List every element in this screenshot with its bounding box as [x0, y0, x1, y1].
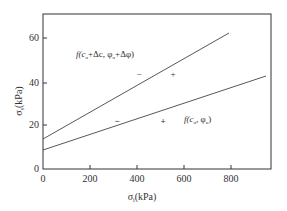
- x-ticks: [90, 165, 231, 169]
- x-tick-label: 400: [130, 173, 145, 184]
- y-tick-label: 40: [29, 77, 39, 88]
- x-axis-label: σi(kPa): [128, 191, 157, 203]
- upper-curve-label: f(cu+Δc, φu+Δφ): [76, 49, 134, 60]
- y-tick-label: 60: [29, 32, 39, 43]
- y-axis-label: σs(kPa): [13, 86, 25, 115]
- x-tick-label: 200: [83, 173, 98, 184]
- x-tick-label: 800: [224, 173, 239, 184]
- minus-sign-upper: −: [136, 69, 141, 79]
- plus-sign-upper: +: [170, 69, 175, 79]
- minus-sign-lower: −: [114, 116, 119, 126]
- lower-curve-label: f(cu, φu): [184, 114, 211, 125]
- y-tick-label: 20: [29, 119, 39, 130]
- plot-frame: [43, 14, 271, 169]
- x-tick-label: 600: [177, 173, 192, 184]
- plus-sign-lower: +: [160, 116, 165, 126]
- chart: 0 200 400 600 800 0 20 40 60 σi(kPa) σs(…: [0, 0, 287, 211]
- lower-curve-line: [43, 76, 266, 150]
- y-ticks: [43, 38, 47, 125]
- y-tick-label: 0: [34, 163, 39, 174]
- x-tick-label: 0: [41, 173, 46, 184]
